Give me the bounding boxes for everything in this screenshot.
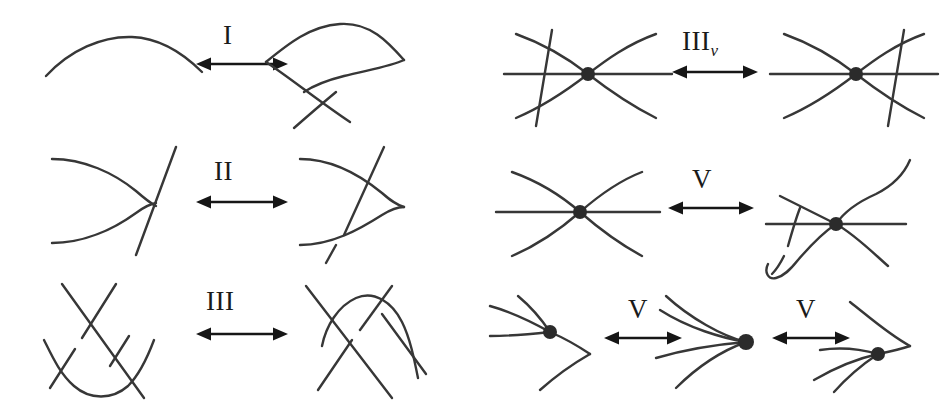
panel-move1-after: [258, 10, 463, 135]
panel-move3-before: [44, 278, 219, 403]
label-move-3: III: [206, 288, 234, 315]
panel-moveV-a: [488, 288, 623, 398]
reidemeister-moves-figure: I II: [0, 0, 952, 411]
panel-moveV-after: [758, 152, 950, 282]
panel-move3v-after: [766, 22, 946, 132]
panel-move3v-before: [500, 22, 680, 132]
panel-move3-after: [296, 278, 471, 403]
panel-moveV-c: [812, 288, 952, 398]
panel-moveV-b: [648, 288, 778, 398]
arrow-move3: [196, 322, 288, 346]
panel-moveV-before: [492, 160, 672, 270]
label-move-2: II: [214, 158, 233, 185]
panel-move1-before: [40, 14, 215, 124]
panel-move2-after: [296, 145, 466, 265]
arrow-move2-glyph: [196, 190, 288, 214]
label-move-v-b1: V: [628, 296, 648, 323]
label-move-3v: IIIv: [682, 28, 718, 59]
label-move-3v-subscript: v: [710, 41, 718, 60]
label-move-3v-base: III: [682, 26, 710, 56]
label-move-1: I: [223, 22, 233, 49]
arrow-moveV-row2: [668, 196, 754, 220]
label-move-v-row2: V: [692, 166, 712, 193]
arrow-move3v: [672, 60, 758, 84]
panel-move2-before: [48, 145, 218, 260]
